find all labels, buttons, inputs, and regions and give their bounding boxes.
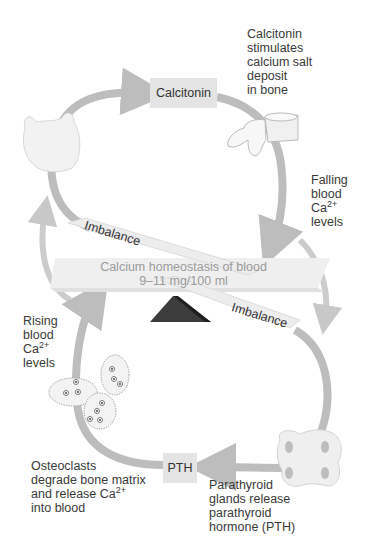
text-line: Calcium homeostasis of blood [0,260,367,274]
text-line: parathyroid [209,506,295,520]
text-line: stimulates [247,41,312,55]
osteoclasts-icon [49,355,129,429]
text-line: calcium salt [247,55,312,69]
text-line: Falling [311,173,348,187]
text-line: in bone [247,83,312,97]
text-line: Ca [311,201,327,215]
text-line: Parathyroid [209,478,295,492]
calcitonin-box: Calcitonin [150,78,217,108]
superscript: 2+ [39,340,49,350]
pth-label: PTH [168,461,193,475]
text-line: levels [23,356,58,370]
rising-calcium-label: Rising blood Ca2+ levels [23,314,58,370]
bone-icon [228,113,298,156]
superscript: 2+ [327,199,337,209]
text-line: deposit [247,69,312,83]
text-line: Ca [23,342,39,356]
pth-box: PTH [163,453,197,483]
parathyroid-label: Parathyroid glands release parathyroid h… [209,478,295,534]
text-line: 9–11 mg/100 ml [0,274,367,288]
text-line: levels [311,215,348,229]
calcitonin-effect-label: Calcitonin stimulates calcium salt depos… [247,27,312,97]
text-line: into blood [31,501,146,515]
osteoclasts-label: Osteoclasts degrade bone matrix and rele… [31,459,146,515]
thyroid-icon [23,113,79,172]
calcitonin-label: Calcitonin [156,86,211,100]
text-line: hormone (PTH) [209,520,295,534]
text-line: glands release [209,492,295,506]
falling-calcium-label: Falling blood Ca2+ levels [311,173,348,229]
text-line: Rising [23,314,58,328]
text-line: Calcitonin [247,27,312,41]
text-line: degrade bone matrix [31,473,146,487]
superscript: 2+ [116,485,126,495]
text-line: and release Ca [31,487,116,501]
homeostasis-title: Calcium homeostasis of blood 9–11 mg/100… [0,260,367,288]
text-line: Osteoclasts [31,459,146,473]
